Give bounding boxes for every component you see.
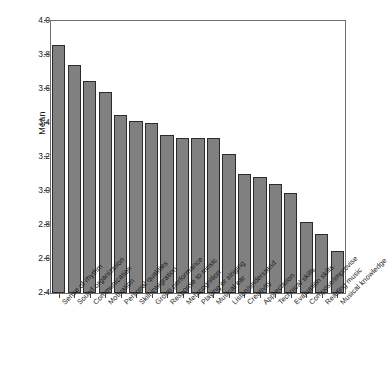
bar (68, 65, 81, 293)
x-axis-labels: Sense of rhythmSound organizationCommuni… (51, 300, 345, 387)
y-axis-tick-mark (44, 122, 49, 123)
y-axis-tick-mark (44, 88, 49, 89)
y-axis-tick-mark (44, 292, 49, 293)
y-axis-tick-mark (44, 156, 49, 157)
y-axis-tick-mark (44, 258, 49, 259)
y-axis-tick-mark (44, 20, 49, 21)
bar (99, 92, 112, 293)
y-axis: 2.42.62.83.03.23.43.63.84.0 (0, 20, 50, 294)
bar (52, 45, 65, 293)
y-axis-tick-mark (44, 54, 49, 55)
y-axis-tick-mark (44, 224, 49, 225)
bar (83, 81, 96, 294)
bars-container (51, 21, 345, 293)
y-axis-tick-mark (44, 190, 49, 191)
bar (269, 184, 282, 293)
x-axis-tick-mark (59, 294, 60, 298)
